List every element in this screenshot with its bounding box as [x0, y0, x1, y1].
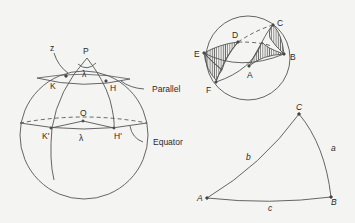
- label-B-sphere: B: [290, 52, 296, 62]
- label-C-triangle: C: [296, 102, 303, 112]
- label-lambda-bottom: λ: [79, 133, 84, 143]
- label-P: P: [83, 46, 89, 56]
- spherical-triangle-figure: [206, 113, 333, 202]
- label-D: D: [232, 30, 238, 40]
- equator-leader: [130, 126, 143, 142]
- side-c: [207, 197, 331, 201]
- label-parallel: Parallel: [152, 84, 180, 94]
- spherical-geometry-diagram: z P λ K H O K' λ H' Parallel Equator C D…: [0, 0, 355, 223]
- label-O: O: [80, 108, 87, 118]
- vertex-C: [298, 113, 301, 116]
- label-side-b: b: [246, 152, 251, 162]
- label-side-c: c: [268, 203, 273, 213]
- label-H: H: [110, 83, 116, 93]
- equator-front: [20, 123, 147, 129]
- label-side-a: a: [331, 143, 336, 153]
- label-H-prime: H': [114, 131, 122, 141]
- side-b: [207, 114, 299, 198]
- dashed-DC: [238, 25, 273, 42]
- vertex-A: [206, 197, 209, 200]
- label-C-sphere: C: [277, 18, 283, 28]
- label-A-triangle: A: [196, 193, 203, 203]
- label-equator: Equator: [153, 137, 183, 147]
- label-K: K: [50, 81, 56, 91]
- z-pointer: [54, 53, 68, 73]
- label-K-prime: K': [42, 131, 50, 141]
- label-E: E: [194, 49, 200, 59]
- lune-sphere-figure: [203, 16, 290, 100]
- side-a: [299, 114, 331, 197]
- label-B-triangle: B: [331, 197, 337, 207]
- label-z: z: [50, 43, 54, 53]
- label-A-sphere: A: [247, 70, 253, 80]
- sphere-outline: [20, 71, 148, 199]
- label-F: F: [206, 85, 211, 95]
